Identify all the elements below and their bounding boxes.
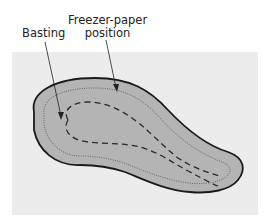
basting-label-text: Basting [22, 26, 65, 40]
basting-label: Basting [22, 27, 65, 40]
freezer-paper-label: Freezer-paper position [68, 14, 147, 40]
freezer-paper-label-line2: position [68, 27, 147, 40]
